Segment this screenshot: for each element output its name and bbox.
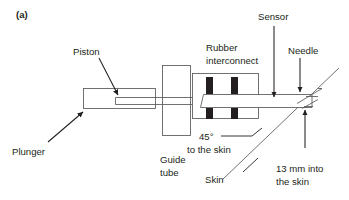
label-depth-line2: the skin — [276, 176, 309, 187]
guide-tube-rect — [163, 66, 191, 136]
plunger-leader-arrow — [48, 112, 83, 142]
label-angle-line2: to the skin — [187, 144, 231, 155]
plunger-body-rect — [84, 89, 156, 109]
label-skin: Skin — [205, 174, 224, 185]
rubber-block-top-right — [231, 77, 238, 94]
rubber-block-bottom-left — [206, 108, 213, 119]
device-schematic-svg: (a) — [0, 0, 349, 200]
label-rubber-line2: interconnect — [206, 55, 259, 66]
label-rubber-line1: Rubber — [206, 42, 238, 53]
rubber-block-top-left — [206, 77, 213, 94]
rubber-block-bottom-right — [231, 108, 238, 119]
label-guide-tube-line2: tube — [160, 167, 179, 178]
label-angle-line1: 45° — [199, 131, 214, 142]
label-needle: Needle — [288, 45, 318, 56]
label-sensor: Sensor — [258, 11, 289, 22]
panel-label: (a) — [16, 9, 28, 20]
sensor-barrel — [201, 95, 313, 108]
label-piston: Piston — [73, 46, 100, 57]
label-plunger: Plunger — [12, 146, 46, 157]
label-depth-line1: 13 mm into — [276, 163, 323, 174]
label-guide-tube-line1: Guide — [160, 154, 186, 165]
angle-leader-diagonal — [252, 128, 262, 136]
skin-leader-line — [243, 158, 258, 172]
figure-panel-a: (a) — [0, 0, 349, 200]
